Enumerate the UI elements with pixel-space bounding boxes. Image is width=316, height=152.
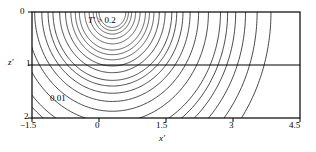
annotation-hot-core: T′ > 0.2 [88, 16, 116, 25]
x-tick-label-4: 4.5 [289, 121, 300, 130]
annotation-outer-level: 0.01 [50, 94, 66, 103]
x-axis-title-prime: ′ [163, 133, 165, 143]
x-tick-label-2: 1.5 [156, 121, 167, 130]
y-tick-label-0: 0 [20, 7, 25, 16]
y-axis-title-prime: ′ [12, 57, 14, 67]
x-tick-label-0: −1.5 [20, 121, 36, 130]
x-tick-label-1: 0 [95, 121, 100, 130]
x-axis-title: x′ [159, 134, 165, 143]
y-tick-label-1: 1 [26, 59, 31, 68]
contour-figure: 0 1 2 z′ −1.5 0 1.5 3 4.5 x′ T′ > 0.2 0.… [0, 0, 316, 152]
y-axis-title: z′ [8, 58, 13, 67]
x-tick-label-3: 3 [229, 121, 234, 130]
annotation-hot-core-value: > 0.2 [95, 15, 116, 25]
